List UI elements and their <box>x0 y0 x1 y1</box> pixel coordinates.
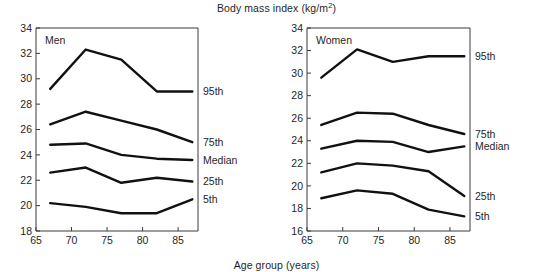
y-tick-label: 28 <box>20 98 32 110</box>
x-tick-label: 85 <box>444 234 456 246</box>
y-tick-label: 30 <box>20 72 32 84</box>
bmi-percentile-figure: Body mass index (kg/m2) 1820222426283032… <box>0 0 553 272</box>
x-tick-label: 80 <box>408 234 420 246</box>
series-line-75th <box>321 113 464 134</box>
x-tick-label: 80 <box>137 234 149 246</box>
x-tick-label: 65 <box>301 234 313 246</box>
series-label-75th: 75th <box>203 136 224 148</box>
x-tick-label: 75 <box>373 234 385 246</box>
series-label-median: Median <box>475 140 510 152</box>
y-tick-label: 22 <box>291 157 303 169</box>
series-label-25th: 25th <box>475 190 496 202</box>
x-tick-label: 70 <box>337 234 349 246</box>
y-tick-label: 20 <box>291 180 303 192</box>
series-line-95th <box>321 49 464 77</box>
series-line-25th <box>50 168 192 183</box>
y-tick-label: 28 <box>291 89 303 101</box>
x-tick-label: 65 <box>30 234 42 246</box>
x-axis-title: Age group (years) <box>0 259 553 271</box>
y-tick-label: 22 <box>20 174 32 186</box>
panel-title: Men <box>45 34 66 46</box>
series-label-75th: 75th <box>475 128 496 140</box>
series-label-5th: 5th <box>475 210 490 222</box>
series-label-5th: 5th <box>203 193 218 205</box>
x-tick-label: 70 <box>66 234 78 246</box>
series-line-95th <box>50 50 192 92</box>
y-tick-label: 18 <box>291 202 303 214</box>
y-tick-label: 26 <box>291 112 303 124</box>
panel-men: 1820222426283032346570758085Men95th75thM… <box>20 22 237 246</box>
series-label-median: Median <box>203 154 238 166</box>
series-label-95th: 95th <box>203 85 224 97</box>
series-line-25th <box>321 163 464 196</box>
y-tick-label: 34 <box>20 22 32 34</box>
series-line-5th <box>50 199 192 213</box>
plot-canvas: 1820222426283032346570758085Men95th75thM… <box>0 0 553 272</box>
series-label-95th: 95th <box>475 50 496 62</box>
y-tick-label: 30 <box>291 67 303 79</box>
y-tick-label: 34 <box>291 22 303 34</box>
y-tick-label: 24 <box>291 134 303 146</box>
series-label-25th: 25th <box>203 175 224 187</box>
panel-women: 161820222426283032346570758085Women95th7… <box>291 22 509 246</box>
x-tick-label: 85 <box>172 234 184 246</box>
x-tick-label: 75 <box>101 234 113 246</box>
y-tick-label: 32 <box>20 47 32 59</box>
series-line-5th <box>321 190 464 216</box>
series-line-75th <box>50 112 192 142</box>
y-tick-label: 20 <box>20 199 32 211</box>
y-tick-label: 26 <box>20 123 32 135</box>
series-line-median <box>321 141 464 152</box>
series-line-median <box>50 143 192 159</box>
y-tick-label: 24 <box>20 149 32 161</box>
panel-title: Women <box>316 34 352 46</box>
y-tick-label: 32 <box>291 44 303 56</box>
